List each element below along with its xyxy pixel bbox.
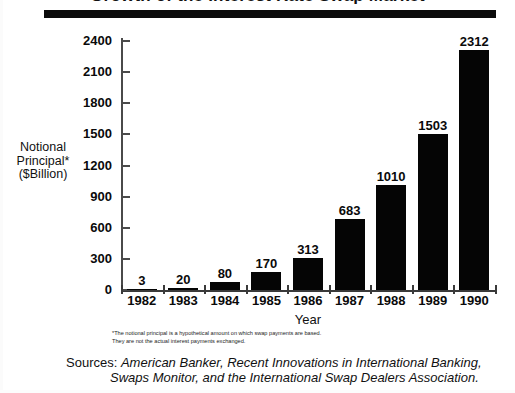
y-axis-tick: [121, 196, 130, 198]
footnote-line-1: *The notional principal is a hypothetica…: [112, 330, 412, 338]
bar-value-label: 1010: [361, 170, 421, 183]
title-divider-rule: [44, 10, 496, 18]
x-axis-category-label: 1989: [412, 294, 454, 308]
x-axis-title: Year: [121, 313, 495, 327]
bar-value-label: 313: [278, 243, 338, 256]
y-axis-tick-label-text: 2400: [66, 34, 112, 47]
bar: [293, 258, 323, 290]
sources-label: Sources:: [66, 355, 117, 370]
footnote-line-2: They are not the actual interest payment…: [112, 338, 412, 346]
chart-title-clipped: Growth of the Interest Rate Swap Market: [0, 0, 515, 8]
bar: [418, 134, 448, 290]
x-axis-category-label: 1983: [163, 294, 205, 308]
x-axis-category-label: 1987: [329, 294, 371, 308]
x-axis-category-label: 1984: [204, 294, 246, 308]
x-axis-category-label: 1988: [370, 294, 412, 308]
sources-line-1: Sources: American Banker, Recent Innovat…: [30, 356, 500, 371]
y-axis-tick-label-text: 1800: [66, 96, 112, 109]
y-axis-tick: [121, 71, 130, 73]
bar: [168, 288, 198, 290]
y-axis-tick-label-text: 900: [66, 190, 112, 203]
x-axis-category-label: 1990: [453, 294, 495, 308]
x-axis-tick: [370, 285, 372, 294]
y-axis-tick: [121, 40, 130, 42]
sources-note: Sources: American Banker, Recent Innovat…: [30, 356, 500, 385]
y-axis-tick: [121, 258, 130, 260]
y-axis-tick: [121, 133, 130, 135]
bar: [251, 272, 281, 290]
y-axis-tick-label-text: 300: [66, 252, 112, 265]
bar: [376, 185, 406, 290]
sources-line-2: Swaps Monitor, and the International Swa…: [30, 371, 500, 386]
x-axis-tick: [204, 285, 206, 294]
bar: [210, 282, 240, 290]
x-axis-tick: [495, 285, 497, 294]
sources-titles-line-1: American Banker, Recent Innovations in I…: [121, 355, 482, 370]
x-axis-tick: [246, 285, 248, 294]
x-axis-category-label: 1982: [121, 294, 163, 308]
page-edge-left: [0, 0, 3, 393]
y-axis-tick-label-text: 1200: [66, 159, 112, 172]
x-axis-tick: [287, 285, 289, 294]
y-axis-tick-label-text: 600: [66, 221, 112, 234]
y-axis-tick: [121, 227, 130, 229]
y-axis-tick-label-text: 2100: [66, 65, 112, 78]
chart-page: Growth of the Interest Rate Swap Market …: [0, 0, 515, 393]
bar-value-label: 170: [236, 257, 296, 270]
bar: [335, 219, 365, 290]
x-axis-tick: [412, 285, 414, 294]
bar: [127, 289, 157, 290]
bar: [459, 50, 489, 290]
footnote: *The notional principal is a hypothetica…: [112, 330, 412, 345]
y-axis-tick: [121, 102, 130, 104]
x-axis-category-label: 1985: [246, 294, 288, 308]
x-axis-category-label: 1986: [287, 294, 329, 308]
x-axis-tick: [453, 285, 455, 294]
chart-title: Growth of the Interest Rate Swap Market: [0, 0, 515, 6]
x-axis-tick: [329, 285, 331, 294]
bar-value-label: 2312: [444, 35, 504, 48]
y-axis-title-line1: Notional: [4, 141, 82, 155]
bar-value-label: 683: [320, 204, 380, 217]
y-axis-tick-label-text: 1500: [66, 127, 112, 140]
y-axis-tick-label-text: 0: [66, 283, 112, 296]
bar-value-label: 1503: [403, 119, 463, 132]
y-axis-tick: [121, 165, 130, 167]
x-axis-line: [121, 290, 495, 292]
